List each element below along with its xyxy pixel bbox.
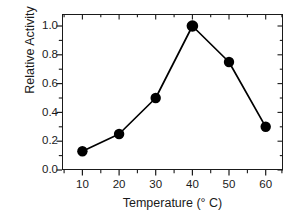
x-tick-label: 10 xyxy=(67,179,97,191)
x-tick-label: 20 xyxy=(104,179,134,191)
x-tick-label: 40 xyxy=(177,179,207,191)
y-axis-title-container: Relative Activity xyxy=(20,0,40,130)
y-axis-title: Relative Activity xyxy=(20,0,40,130)
x-axis-title: Temperature (° C) xyxy=(62,196,283,210)
chart-figure: 1.0 0.8 0.6 0.4 0.2 0.0 10 20 30 40 50 6… xyxy=(0,0,300,222)
x-axis-tick-labels: 10 20 30 40 50 60 xyxy=(0,0,300,222)
x-tick-label: 50 xyxy=(214,179,244,191)
x-tick-label: 60 xyxy=(251,179,281,191)
x-tick-label: 30 xyxy=(141,179,171,191)
